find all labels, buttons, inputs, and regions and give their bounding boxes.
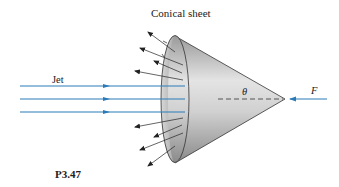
figure-canvas: Conical sheet Jet θ F P3.47 — [0, 0, 339, 187]
force-label: F — [311, 85, 317, 96]
jet-streams — [20, 84, 185, 114]
problem-label: P3.47 — [55, 168, 81, 180]
jet-label: Jet — [52, 74, 64, 85]
angle-label: θ — [242, 86, 247, 97]
conical-sheet-diagram — [0, 0, 339, 187]
figure-title: Conical sheet — [151, 7, 211, 19]
